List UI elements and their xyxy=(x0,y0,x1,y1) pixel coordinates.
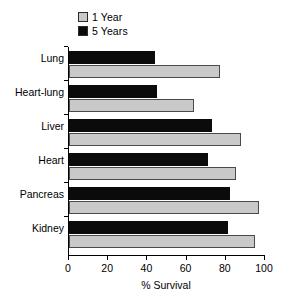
x-axis-tick xyxy=(186,255,187,260)
bar-1-year xyxy=(69,133,241,146)
legend-label-1-year: 1 Year xyxy=(92,12,122,23)
survival-bar-chart: 1 Year 5 Years LungHeart-lungLiverHeartP… xyxy=(0,0,296,300)
x-axis-tick xyxy=(264,255,265,260)
bar-5-years xyxy=(69,187,230,200)
legend-item-1-year: 1 Year xyxy=(78,11,128,23)
bar-1-year xyxy=(69,235,255,248)
y-axis-tick xyxy=(64,148,68,149)
x-axis-title: % Survival xyxy=(68,279,264,291)
bar-1-year xyxy=(69,201,259,214)
y-axis-category-label: Pancreas xyxy=(20,188,64,200)
chart-legend: 1 Year 5 Years xyxy=(78,11,128,37)
x-axis-tick xyxy=(225,255,226,260)
x-axis-tick-label: 40 xyxy=(141,262,153,274)
bar-5-years xyxy=(69,51,155,64)
y-axis-tick xyxy=(64,182,68,183)
legend-swatch-5-years xyxy=(78,26,88,36)
x-axis-line xyxy=(68,255,265,256)
y-axis-category-label: Heart xyxy=(38,154,64,166)
bar-5-years xyxy=(69,221,228,234)
x-axis-tick-label: 60 xyxy=(180,262,192,274)
legend-swatch-1-year xyxy=(78,12,88,22)
y-axis-category-label: Lung xyxy=(41,52,64,64)
y-axis-tick xyxy=(64,114,68,115)
bar-1-year xyxy=(69,167,236,180)
y-axis-category-label: Kidney xyxy=(32,222,64,234)
x-axis-tick xyxy=(68,255,69,260)
x-axis-tick-label: 20 xyxy=(101,262,113,274)
plot-area: LungHeart-lungLiverHeartPancreasKidney 0… xyxy=(68,47,264,255)
y-axis-category-label: Liver xyxy=(41,120,64,132)
y-axis-tick xyxy=(64,216,68,217)
legend-label-5-years: 5 Years xyxy=(92,26,128,37)
y-axis-tick xyxy=(64,80,68,81)
x-axis-tick xyxy=(107,255,108,260)
bar-1-year xyxy=(69,99,194,112)
x-axis-tick xyxy=(146,255,147,260)
y-axis-category-label: Heart-lung xyxy=(15,86,64,98)
x-axis-tick-label: 80 xyxy=(219,262,231,274)
x-axis-tick-label: 0 xyxy=(65,262,71,274)
x-axis-tick-label: 100 xyxy=(255,262,273,274)
bar-5-years xyxy=(69,85,157,98)
bar-5-years xyxy=(69,119,212,132)
legend-item-5-years: 5 Years xyxy=(78,25,128,37)
y-axis-tick xyxy=(64,46,68,47)
bar-5-years xyxy=(69,153,208,166)
bar-1-year xyxy=(69,65,220,78)
